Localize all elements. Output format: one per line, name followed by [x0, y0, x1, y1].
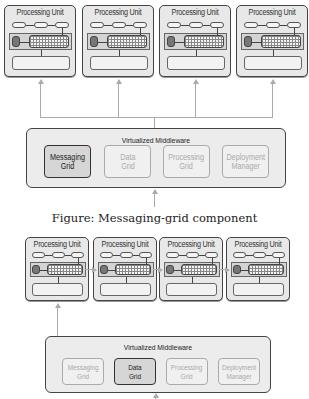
processing-unit: Processing Unit — [236, 5, 308, 77]
component-label: Processing Grid — [171, 363, 203, 381]
service-pill — [34, 22, 48, 28]
arrow-up-icon — [55, 303, 61, 308]
processing-unit: Processing Unit — [93, 237, 157, 301]
platform-bar — [12, 56, 70, 70]
service-pill — [266, 22, 280, 28]
connector-line — [20, 42, 29, 43]
connector-line — [126, 25, 133, 26]
component-label: Messaging Grid — [68, 363, 99, 381]
data-grid-icon — [47, 264, 83, 275]
component-label: Deployment Manager — [226, 153, 265, 171]
database-icon — [90, 36, 98, 47]
arrow-right-icon — [158, 267, 163, 273]
data-grid-icon — [184, 35, 224, 48]
service-pill — [100, 252, 113, 258]
service-pill — [233, 252, 246, 258]
connector-line — [45, 255, 52, 256]
middleware-title: Virtualized Middleware — [63, 343, 253, 352]
component-label: Deployment Manager — [222, 363, 256, 381]
middleware-component-processing: Processing Grid — [166, 358, 208, 385]
platform-bar — [32, 283, 83, 296]
connector-line — [258, 25, 266, 26]
processing-unit-title: Processing Unit — [232, 239, 285, 249]
service-pill — [52, 252, 65, 258]
processing-unit-title: Processing Unit — [88, 7, 148, 17]
connector-line — [246, 255, 253, 256]
arrow-up-icon — [153, 393, 159, 398]
platform-bar — [100, 283, 151, 296]
middleware-component-processing: Processing Grid — [163, 145, 210, 178]
database-icon — [12, 36, 20, 47]
arrow-up-icon — [116, 79, 122, 84]
connector-line — [98, 42, 107, 43]
service-pill — [253, 252, 266, 258]
processing-unit: Processing Unit — [25, 237, 89, 301]
connector-line — [118, 83, 119, 117]
database-icon — [233, 265, 241, 274]
connector-line — [179, 255, 186, 256]
connector-line — [108, 270, 115, 271]
connector-bus — [40, 117, 273, 118]
connector-line — [113, 255, 120, 256]
connector-line — [48, 25, 55, 26]
connector-line — [203, 25, 210, 26]
platform-bar — [244, 56, 302, 70]
processing-unit-title: Processing Unit — [10, 7, 70, 17]
data-grid-icon — [181, 264, 217, 275]
connector-line — [241, 270, 248, 271]
connector-line — [181, 25, 189, 26]
data-grid-icon — [107, 35, 147, 48]
middleware-component-data: Data Grid — [114, 358, 156, 385]
processing-unit: Processing Unit — [159, 237, 223, 301]
connector-line — [26, 25, 34, 26]
connector-line — [40, 270, 47, 271]
processing-unit-title: Processing Unit — [31, 239, 84, 249]
data-grid-icon — [248, 264, 284, 275]
data-grid-icon — [29, 35, 69, 48]
processing-unit: Processing Unit — [159, 5, 231, 77]
platform-bar — [166, 283, 217, 296]
middleware-component-deployment: Deployment Manager — [218, 358, 260, 385]
database-icon — [244, 36, 252, 47]
component-label: Messaging Grid — [50, 153, 85, 171]
database-icon — [167, 36, 175, 47]
virtualized-middleware: Virtualized MiddlewareMessaging GridData… — [45, 336, 271, 393]
processing-unit: Processing Unit — [4, 5, 76, 77]
middleware-component-messaging: Messaging Grid — [62, 358, 104, 385]
database-icon — [166, 265, 174, 274]
processing-unit: Processing Unit — [82, 5, 154, 77]
connector-line — [154, 117, 155, 128]
arrow-right-icon — [225, 267, 230, 273]
connector-line — [57, 307, 58, 336]
platform-bar — [167, 56, 225, 70]
middleware-component-deployment: Deployment Manager — [222, 145, 269, 178]
arrow-up-icon — [38, 79, 44, 84]
connector-line — [104, 25, 112, 26]
arrow-up-icon — [193, 79, 199, 84]
figure-caption: Figure: Messaging-grid component — [0, 211, 309, 225]
component-label: Data Grid — [120, 153, 135, 171]
database-icon — [32, 265, 40, 274]
connector-line — [280, 25, 287, 26]
arrow-up-icon — [152, 189, 158, 194]
arrow-up-icon — [270, 79, 276, 84]
service-pill — [120, 252, 133, 258]
service-pill — [166, 252, 179, 258]
processing-unit-title: Processing Unit — [165, 239, 218, 249]
processing-unit: Processing Unit — [226, 237, 290, 301]
connector-line — [154, 193, 155, 207]
database-icon — [100, 265, 108, 274]
middleware-component-data: Data Grid — [104, 145, 151, 178]
service-pill — [32, 252, 45, 258]
platform-bar — [90, 56, 148, 70]
virtualized-middleware: Virtualized MiddlewareMessaging GridData… — [26, 128, 286, 188]
service-pill — [112, 22, 126, 28]
connector-line — [40, 83, 41, 117]
service-pill — [12, 22, 26, 28]
connector-line — [195, 83, 196, 117]
connector-line — [175, 42, 184, 43]
data-grid-icon — [115, 264, 151, 275]
arrow-right-icon — [92, 267, 97, 273]
processing-unit-title: Processing Unit — [242, 7, 302, 17]
service-pill — [90, 22, 104, 28]
